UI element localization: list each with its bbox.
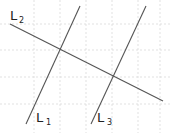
label-l3: L xyxy=(97,110,105,125)
label-l2: L xyxy=(10,8,18,23)
line-l2 xyxy=(10,24,163,101)
label-subscript-l2: 2 xyxy=(19,16,24,25)
label-l1: L xyxy=(36,110,44,125)
lines-diagram: L1L2L3 xyxy=(0,0,170,133)
grid xyxy=(0,0,170,133)
label-subscript-l1: 1 xyxy=(46,118,51,127)
label-subscript-l3: 3 xyxy=(107,118,112,127)
